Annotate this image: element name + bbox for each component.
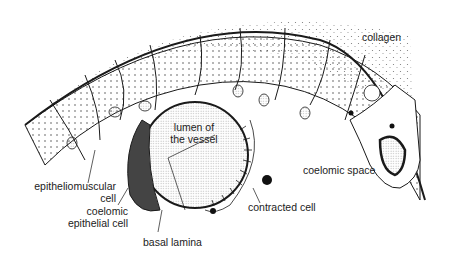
label-coelomic-epithelial-cell-group: coelomic epithelial cell [30, 205, 128, 229]
label-epitheliomuscular-line1: epitheliomuscular [20, 180, 116, 192]
vessel-lumen [142, 102, 248, 208]
label-lumen-line1: lumen of [164, 121, 224, 133]
label-lumen: lumen of the vessel [164, 121, 224, 145]
label-coelomic-line1: coelomic [30, 205, 128, 217]
label-coelomic-space: coelomic space [303, 164, 375, 176]
label-lumen-line2: the vessel [164, 133, 224, 145]
label-basal-lamina: basal lamina [143, 236, 202, 248]
label-epitheliomuscular-cell: epitheliomuscular cell [20, 180, 116, 204]
label-collagen: collagen [362, 31, 401, 43]
label-contracted-cell: contracted cell [248, 201, 316, 213]
label-epitheliomuscular-line2: cell [20, 192, 116, 204]
label-coelomic-line2: epithelial cell [30, 217, 128, 229]
